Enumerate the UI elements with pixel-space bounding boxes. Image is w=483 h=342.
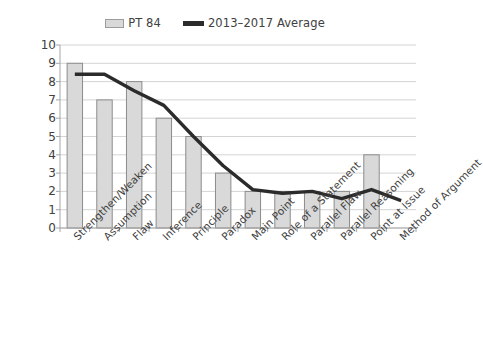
- bar: [245, 191, 260, 228]
- y-tick-label: 1: [34, 204, 56, 216]
- bar: [215, 173, 230, 228]
- y-tick-label: 0: [34, 222, 56, 234]
- bar: [304, 191, 319, 228]
- bar: [156, 118, 171, 228]
- bar: [67, 63, 82, 228]
- bar-series: [67, 63, 379, 228]
- y-tick-label: 2: [34, 185, 56, 197]
- y-tick-label: 6: [34, 112, 56, 124]
- y-tick-label: 9: [34, 57, 56, 69]
- bar: [186, 137, 201, 229]
- average-line: [75, 74, 401, 200]
- bar: [97, 100, 112, 228]
- y-axis-ticks: [56, 45, 60, 228]
- y-tick-label: 7: [34, 94, 56, 106]
- bar: [275, 191, 290, 228]
- y-tick-label: 3: [34, 167, 56, 179]
- y-tick-label: 10: [34, 39, 56, 51]
- bar: [126, 82, 141, 228]
- y-tick-label: 8: [34, 76, 56, 88]
- y-tick-label: 4: [34, 149, 56, 161]
- y-tick-label: 5: [34, 131, 56, 143]
- y-axis-labels: 012345678910: [26, 0, 56, 342]
- gridlines: [60, 45, 416, 228]
- line-series: [75, 74, 401, 200]
- x-axis-ticks: [60, 228, 416, 232]
